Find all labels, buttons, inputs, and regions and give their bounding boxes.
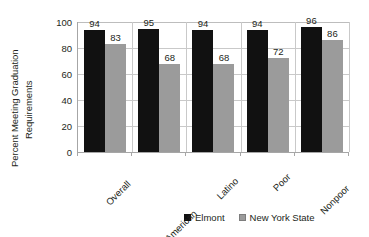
y-axis-tick-label: 0 xyxy=(46,147,72,158)
y-axis-tick-labels: 020406080100 xyxy=(44,22,72,152)
x-axis-tick-mark xyxy=(77,152,78,156)
x-axis-tick-mark xyxy=(185,152,186,156)
x-axis-tick-mark xyxy=(348,152,349,156)
bar-value-label: 83 xyxy=(110,32,121,43)
plot-right-edge xyxy=(349,22,350,152)
x-axis-tick-mark xyxy=(294,152,295,156)
bar xyxy=(301,27,322,152)
y-axis-tick-label: 60 xyxy=(46,69,72,80)
x-axis-tick-mark xyxy=(240,152,241,156)
bar-value-label: 94 xyxy=(198,18,209,29)
legend-swatch-icon-new-york-state xyxy=(239,214,246,221)
bar xyxy=(84,30,105,152)
bar-group: 9568 xyxy=(132,22,186,152)
legend-item-new-york-state: New York State xyxy=(239,212,315,223)
bar-group: 9483 xyxy=(78,22,132,152)
bar-chart: Percent Meeting Graduation Requirements … xyxy=(0,0,369,237)
bar xyxy=(322,40,343,152)
bar xyxy=(268,58,289,152)
bar-value-label: 94 xyxy=(89,18,100,29)
y-axis-tick-label: 20 xyxy=(46,121,72,132)
y-axis-title-line-1: Percent Meeting Graduation xyxy=(9,49,20,167)
x-axis-category-label: Nonpoor xyxy=(318,183,352,217)
bar xyxy=(105,44,126,152)
y-axis-tick-label: 80 xyxy=(46,43,72,54)
bar-group: 9686 xyxy=(295,22,349,152)
bar-group: 9468 xyxy=(186,22,240,152)
bar-value-label: 72 xyxy=(273,46,284,57)
x-axis-tick-mark xyxy=(131,152,132,156)
bar-value-label: 95 xyxy=(143,17,154,28)
bar-value-label: 68 xyxy=(219,52,230,63)
x-axis-category-label: Latino xyxy=(214,175,240,201)
bar xyxy=(192,30,213,152)
bar-value-label: 96 xyxy=(306,15,317,26)
plot-area: 94839568946894729686 xyxy=(77,22,349,153)
bar-value-label: 86 xyxy=(327,28,338,39)
x-axis-category-label: Overall xyxy=(104,178,133,207)
bar xyxy=(213,64,234,152)
bar-value-label: 68 xyxy=(164,52,175,63)
legend-label-new-york-state: New York State xyxy=(250,212,315,223)
y-axis-tick-label: 100 xyxy=(46,17,72,28)
bar xyxy=(138,29,159,153)
bar xyxy=(247,30,268,152)
x-axis-category-label: Poor xyxy=(270,171,292,193)
bar xyxy=(159,64,180,152)
x-axis-category-label: African American xyxy=(141,208,200,237)
legend-label-elmont: Elmont xyxy=(195,212,225,223)
y-axis-tick-label: 40 xyxy=(46,95,72,106)
y-axis-title: Percent Meeting Graduation Requirements xyxy=(0,0,50,175)
bar-value-label: 94 xyxy=(252,18,263,29)
bar-group: 9472 xyxy=(241,22,295,152)
y-axis-title-line-2: Requirements xyxy=(23,80,34,139)
chart-legend: Elmont New York State xyxy=(184,212,315,223)
